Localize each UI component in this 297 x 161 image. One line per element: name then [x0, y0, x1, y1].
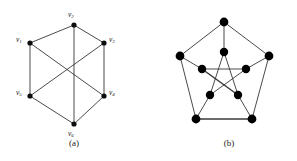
vertex-label-v2: v2 — [68, 10, 74, 19]
graph-vertex — [220, 18, 229, 27]
graph-edge — [30, 96, 74, 124]
graph-vertex — [242, 65, 250, 73]
graph-vertex — [176, 52, 185, 61]
graph-edge — [180, 56, 196, 119]
graph-vertex — [101, 93, 106, 98]
graph-vertex — [206, 91, 214, 99]
graph-edge — [210, 69, 246, 95]
graph-vertex — [198, 65, 206, 73]
vertex-label-v6: v6 — [68, 129, 74, 138]
graph-figure: v2v3v4v6v5v1 (a) (b) — [0, 0, 297, 161]
graph-vertex — [101, 40, 106, 45]
graph-edge — [210, 52, 224, 95]
graph-vertex — [192, 115, 201, 124]
graph-edge — [224, 22, 269, 56]
panel-a-caption: (a) — [69, 138, 79, 148]
vertex-label-v5: v5 — [16, 88, 22, 97]
graph-vertex — [27, 40, 32, 45]
panel-b-nodes — [176, 18, 274, 124]
graph-vertex — [248, 115, 257, 124]
graph-vertex — [265, 52, 274, 61]
graph-edge — [224, 52, 238, 95]
vertex-label-v1: v1 — [16, 35, 22, 44]
graph-edge — [74, 25, 104, 43]
graph-edge — [30, 25, 74, 43]
graph-vertex — [27, 93, 32, 98]
vertex-label-v3: v3 — [109, 35, 115, 44]
vertex-label-v4: v4 — [109, 88, 115, 97]
graph-edge — [74, 96, 104, 124]
graph-edge — [252, 56, 269, 119]
panel-b-edges — [180, 22, 269, 119]
panel-b-caption: (b) — [224, 138, 235, 148]
graph-vertex — [220, 48, 228, 56]
figure-container: v2v3v4v6v5v1 (a) (b) — [0, 0, 297, 161]
graph-vertex — [71, 22, 76, 27]
panel-a-nodes — [27, 22, 106, 126]
panel-a-edges — [30, 25, 104, 124]
graph-edge — [202, 69, 238, 95]
graph-vertex — [234, 91, 242, 99]
graph-vertex — [71, 121, 76, 126]
graph-edge — [180, 22, 224, 56]
